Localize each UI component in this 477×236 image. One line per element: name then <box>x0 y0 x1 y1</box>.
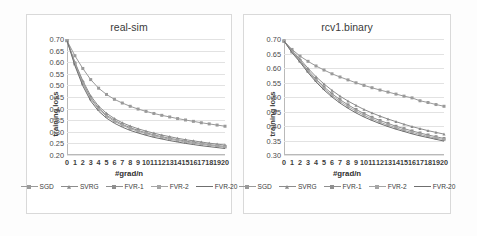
x-axis-tick: 8 <box>128 158 132 167</box>
legend-label: FVR-2 <box>170 183 189 190</box>
series-sgd <box>66 39 227 128</box>
x-axis-tick: 19 <box>213 158 221 167</box>
legend-swatch-icon <box>61 186 78 187</box>
y-axis-tick: 0.30 <box>267 151 281 160</box>
y-axis-tick: 0.45 <box>50 93 64 102</box>
x-tick-band: 01234567891011121314151617181920 <box>67 155 225 167</box>
x-axis-tick: 3 <box>89 158 93 167</box>
y-axis-tick: 0.55 <box>267 78 281 87</box>
x-axis-tick: 16 <box>189 158 197 167</box>
series-fvr-20 <box>284 41 444 141</box>
legend-swatch-icon <box>414 186 431 187</box>
chart-legend: SGDSVRGFVR-1FVR-2FVR-20 <box>27 183 231 190</box>
x-axis-tick: 6 <box>112 158 116 167</box>
legend-item-svrg[interactable]: SVRG <box>279 183 317 190</box>
x-axis-tick: 16 <box>408 158 416 167</box>
y-axis-tick: 0.30 <box>50 127 64 136</box>
legend-item-sgd[interactable]: SGD <box>21 183 54 190</box>
x-axis-tick: 14 <box>174 158 182 167</box>
y-axis-tick: 0.20 <box>50 151 64 160</box>
y-axis-tick: 0.70 <box>267 35 281 44</box>
legend-item-fvr-1[interactable]: FVR-1 <box>106 183 144 190</box>
x-axis-tick: 15 <box>182 158 190 167</box>
legend-swatch-icon <box>239 186 256 187</box>
series-layer <box>284 39 444 155</box>
y-axis-tick: 0.35 <box>50 116 64 125</box>
y-axis-tick: 0.60 <box>50 58 64 67</box>
series-fvr-1 <box>283 40 446 140</box>
legend-swatch-icon <box>196 186 213 187</box>
x-axis-tick: 17 <box>197 158 205 167</box>
legend-swatch-icon <box>21 186 38 187</box>
x-axis-tick: 11 <box>150 158 158 167</box>
legend-item-sgd[interactable]: SGD <box>239 183 272 190</box>
legend-label: FVR-1 <box>125 183 144 190</box>
x-axis-label: #grad/n <box>27 169 231 178</box>
legend-label: SGD <box>258 183 272 190</box>
legend-label: SGD <box>40 183 54 190</box>
x-axis-tick: 4 <box>97 158 101 167</box>
x-axis-tick: 8 <box>346 158 350 167</box>
x-axis-tick: 2 <box>81 158 85 167</box>
y-axis-tick: 0.55 <box>50 69 64 78</box>
x-axis-tick: 20 <box>440 158 448 167</box>
chart-title: real-sim <box>27 21 231 33</box>
x-axis-tick: 12 <box>376 158 384 167</box>
y-axis-tick: 0.50 <box>267 93 281 102</box>
series-svrg <box>282 39 445 135</box>
x-axis-tick: 6 <box>330 158 334 167</box>
x-axis-tick: 10 <box>142 158 150 167</box>
legend-item-fvr-20[interactable]: FVR-20 <box>196 183 238 190</box>
x-axis-tick: 9 <box>354 158 358 167</box>
x-axis-tick: 18 <box>424 158 432 167</box>
x-axis-tick: 11 <box>368 158 376 167</box>
legend-item-fvr-1[interactable]: FVR-1 <box>324 183 362 190</box>
legend-item-fvr-20[interactable]: FVR-20 <box>414 183 456 190</box>
y-axis-tick: 0.50 <box>50 81 64 90</box>
legend-item-fvr-2[interactable]: FVR-2 <box>151 183 189 190</box>
x-axis-tick: 0 <box>282 158 286 167</box>
x-axis-tick: 15 <box>400 158 408 167</box>
y-axis-tick: 0.25 <box>50 139 64 148</box>
x-axis-tick: 5 <box>322 158 326 167</box>
x-axis-tick: 12 <box>158 158 166 167</box>
chart-panel-real-sim: real-sim training loss 0.700.650.600.550… <box>26 14 232 214</box>
legend-label: FVR-2 <box>388 183 407 190</box>
y-axis-tick: 0.40 <box>267 122 281 131</box>
chart-title: rcv1.binary <box>244 21 450 33</box>
y-axis-tick: 0.35 <box>267 136 281 145</box>
x-axis-tick: 1 <box>290 158 294 167</box>
legend-swatch-icon <box>369 186 386 187</box>
x-axis-tick: 5 <box>105 158 109 167</box>
legend-label: SVRG <box>298 183 317 190</box>
legend-swatch-icon <box>324 186 341 187</box>
x-axis-tick: 9 <box>136 158 140 167</box>
y-axis-tick: 0.65 <box>50 46 64 55</box>
x-axis-tick: 17 <box>416 158 424 167</box>
chart-legend: SGDSVRGFVR-1FVR-2FVR-20 <box>244 183 450 190</box>
chart-panel-rcv1-binary: rcv1.binary training loss 0.700.650.600.… <box>243 14 451 214</box>
series-fvr-2 <box>283 40 446 142</box>
y-axis-tick: 0.60 <box>267 64 281 73</box>
x-axis-tick: 4 <box>314 158 318 167</box>
legend-swatch-icon <box>279 186 296 187</box>
y-axis-tick: 0.65 <box>267 49 281 58</box>
legend-label: SVRG <box>80 183 99 190</box>
legend-label: FVR-1 <box>343 183 362 190</box>
y-axis-tick: 0.40 <box>50 104 64 113</box>
x-axis-tick: 2 <box>298 158 302 167</box>
x-axis-label: #grad/n <box>244 169 450 178</box>
legend-item-svrg[interactable]: SVRG <box>61 183 99 190</box>
plot-area: 0.700.650.600.550.500.450.400.350.30 <box>284 39 444 155</box>
x-axis-tick: 7 <box>120 158 124 167</box>
x-axis-tick: 3 <box>306 158 310 167</box>
series-svrg <box>65 39 226 146</box>
x-axis-tick: 13 <box>166 158 174 167</box>
x-axis-tick: 18 <box>205 158 213 167</box>
plot-area: 0.700.650.600.550.500.450.400.350.300.25… <box>67 39 225 155</box>
y-axis-tick: 0.45 <box>267 107 281 116</box>
legend-swatch-icon <box>106 186 123 187</box>
legend-swatch-icon <box>151 186 168 187</box>
legend-item-fvr-2[interactable]: FVR-2 <box>369 183 407 190</box>
x-axis-tick: 20 <box>221 158 229 167</box>
